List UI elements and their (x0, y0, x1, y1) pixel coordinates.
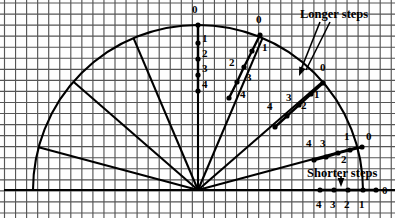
tick-label-ray-lower-right-1: 1 (344, 131, 350, 142)
tick-label-ray-lower-right-3: 3 (320, 138, 326, 149)
tick-label-ray-mid-right-1: 1 (314, 89, 320, 100)
radial-step-diagram: 0123401234012340123401234 Longer steps S… (0, 0, 395, 218)
tick-label-horizontal-baseline-ray-2: 2 (344, 199, 350, 210)
step-dot-ray-upper-right-0 (257, 32, 262, 37)
step-dot-horizontal-baseline-ray-0 (373, 187, 378, 192)
annotation-longer-steps: Longer steps (300, 8, 368, 21)
annotation-shorter-steps: Shorter steps (307, 167, 377, 180)
step-dot-ray-mid-right-0 (320, 80, 325, 85)
tick-label-ray-upper-right-0: 0 (256, 14, 262, 25)
step-dot-horizontal-baseline-ray-4 (317, 187, 322, 192)
step-dot-ray-upper-right-2 (241, 64, 246, 69)
arrowhead-longer-steps (299, 66, 306, 76)
tick-label-vertical-ray-1: 1 (202, 33, 208, 44)
tick-label-vertical-ray-3: 3 (202, 63, 208, 74)
tick-label-ray-upper-right-2: 2 (229, 57, 235, 68)
tick-label-horizontal-baseline-ray-3: 3 (330, 199, 336, 210)
step-dot-horizontal-baseline-ray-3 (331, 187, 336, 192)
step-dot-vertical-ray-1 (195, 40, 200, 45)
step-dot-ray-upper-right-3 (234, 79, 239, 84)
tick-label-ray-lower-right-4: 4 (306, 138, 312, 149)
step-dot-ray-lower-right-2 (335, 150, 340, 155)
tick-label-ray-mid-right-2: 2 (301, 100, 307, 111)
step-dot-ray-lower-right-4 (311, 157, 316, 162)
step-dot-ray-mid-right-4 (272, 124, 277, 129)
tick-label-ray-mid-right-0: 0 (320, 62, 326, 73)
step-dot-ray-upper-right-1 (249, 48, 254, 53)
tick-label-horizontal-baseline-ray-1: 1 (359, 199, 365, 210)
diagram-canvas (0, 0, 395, 218)
step-dot-horizontal-baseline-ray-2 (345, 187, 350, 192)
step-dot-horizontal-baseline-ray-1 (360, 187, 365, 192)
tick-label-ray-upper-right-4: 4 (240, 89, 246, 100)
tick-label-horizontal-baseline-ray-0: 0 (382, 185, 388, 196)
tick-label-ray-lower-right-0: 0 (366, 131, 372, 142)
step-dot-ray-lower-right-1 (347, 147, 352, 152)
tick-label-ray-upper-right-3: 3 (246, 72, 252, 83)
tick-label-ray-mid-right-3: 3 (286, 92, 292, 103)
tick-label-vertical-ray-0: 0 (192, 4, 198, 15)
step-dot-ray-mid-right-1 (308, 91, 313, 96)
step-dot-vertical-ray-0 (195, 22, 200, 27)
tick-label-ray-upper-right-1: 1 (262, 42, 268, 53)
step-dot-vertical-ray-3 (195, 72, 200, 77)
step-dot-ray-mid-right-3 (284, 113, 289, 118)
tick-label-vertical-ray-4: 4 (202, 79, 208, 90)
step-dot-vertical-ray-4 (195, 88, 200, 93)
step-dot-ray-upper-right-4 (226, 95, 231, 100)
step-dot-vertical-ray-2 (195, 56, 200, 61)
tick-label-ray-mid-right-4: 4 (267, 101, 273, 112)
tick-label-ray-lower-right-2: 2 (341, 154, 347, 165)
step-dot-ray-lower-right-0 (359, 144, 364, 149)
step-dot-ray-lower-right-3 (323, 154, 328, 159)
tick-label-horizontal-baseline-ray-4: 4 (316, 199, 322, 210)
tick-label-vertical-ray-2: 2 (202, 48, 208, 59)
